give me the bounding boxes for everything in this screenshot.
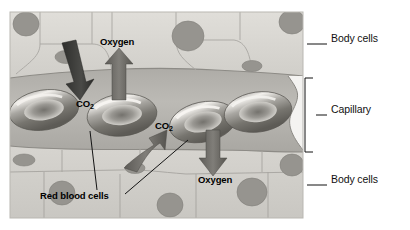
cropped-caption-remnant — [0, 0, 410, 9]
annotation-red-blood-cells: Red blood cells — [40, 190, 109, 201]
gas-exchange-figure: Body cells Capillary Body cells Oxygen C… — [0, 0, 410, 230]
annotation-co2-in-2: CO2 — [155, 120, 173, 132]
annotation-oxygen-out: Oxygen — [100, 36, 134, 47]
panel-content — [6, 10, 305, 218]
co2-text: CO — [155, 120, 169, 131]
annotation-co2-in: CO2 — [76, 98, 94, 110]
co2-subscript: 2 — [90, 103, 94, 110]
callout-label-body-cells-bottom: Body cells — [331, 173, 378, 185]
annotation-oxygen-down: Oxygen — [198, 174, 232, 185]
callout-label-body-cells-top: Body cells — [331, 32, 378, 44]
co2-text: CO — [76, 98, 90, 109]
co2-subscript: 2 — [169, 125, 173, 132]
capillary-bracket — [305, 78, 313, 152]
callout-label-capillary: Capillary — [331, 103, 371, 115]
